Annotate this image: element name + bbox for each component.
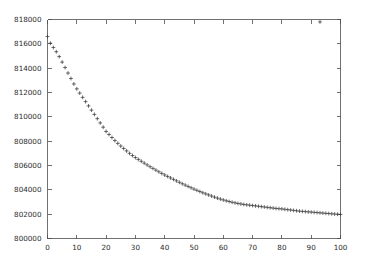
data-point-marker xyxy=(78,91,82,95)
plot-border xyxy=(48,20,341,239)
x-tick-label: 90 xyxy=(307,243,317,252)
data-point-marker xyxy=(60,60,64,64)
data-point-marker xyxy=(69,77,73,81)
x-tick-label: 100 xyxy=(334,243,348,252)
data-point-marker xyxy=(131,154,135,158)
data-point-marker xyxy=(81,95,85,99)
data-point-marker xyxy=(221,198,225,202)
y-tick-label: 818000 xyxy=(14,15,42,24)
data-point-marker xyxy=(98,121,102,125)
data-point-marker xyxy=(125,149,129,153)
x-axis-ticks: 0102030405060708090100 xyxy=(45,20,348,252)
y-axis-ticks: 8000008020008040008060008080008100008120… xyxy=(14,15,340,243)
data-point-marker xyxy=(87,104,91,108)
data-points xyxy=(46,20,343,216)
data-point-marker xyxy=(139,159,143,163)
x-tick-label: 10 xyxy=(72,243,82,252)
x-tick-label: 0 xyxy=(45,243,50,252)
data-point-marker xyxy=(134,156,138,160)
y-tick-label: 812000 xyxy=(14,88,42,97)
data-point-marker xyxy=(128,151,132,155)
data-point-marker xyxy=(136,158,140,162)
y-tick-label: 816000 xyxy=(14,39,42,48)
y-tick-label: 804000 xyxy=(14,185,42,194)
y-tick-label: 814000 xyxy=(14,64,42,73)
data-point-marker xyxy=(119,144,123,148)
data-point-marker xyxy=(51,46,55,50)
data-point-marker xyxy=(236,202,240,206)
data-point-marker xyxy=(339,213,343,217)
data-point-marker xyxy=(318,20,322,24)
x-tick-label: 70 xyxy=(248,243,258,252)
data-point-marker xyxy=(107,133,111,137)
x-tick-label: 60 xyxy=(219,243,229,252)
y-tick-label: 800000 xyxy=(14,234,42,243)
x-tick-label: 20 xyxy=(102,243,112,252)
x-tick-label: 80 xyxy=(277,243,287,252)
data-point-marker xyxy=(145,163,149,167)
plot-figure: 8000008020008040008060008080008100008120… xyxy=(0,0,373,263)
data-point-marker xyxy=(92,113,96,117)
data-point-marker xyxy=(66,71,70,75)
data-point-marker xyxy=(90,108,94,112)
data-point-marker xyxy=(101,125,105,129)
data-point-marker xyxy=(49,41,53,45)
data-point-marker xyxy=(95,117,99,121)
data-point-marker xyxy=(142,161,146,165)
y-tick-label: 802000 xyxy=(14,210,42,219)
x-tick-label: 30 xyxy=(131,243,141,252)
plot-axes xyxy=(48,20,341,239)
data-point-marker xyxy=(227,200,231,204)
data-point-marker xyxy=(63,66,67,70)
y-tick-label: 808000 xyxy=(14,137,42,146)
data-point-marker xyxy=(230,200,234,204)
data-point-marker xyxy=(116,141,120,145)
x-tick-label: 40 xyxy=(160,243,170,252)
data-point-marker xyxy=(54,50,58,54)
data-point-marker xyxy=(233,201,237,205)
data-point-marker xyxy=(84,100,88,104)
x-tick-label: 50 xyxy=(189,243,199,252)
data-point-marker xyxy=(113,139,117,143)
data-point-marker xyxy=(110,136,114,140)
scatter-plot-canvas: 8000008020008040008060008080008100008120… xyxy=(0,0,373,263)
data-point-marker xyxy=(122,147,126,151)
y-tick-label: 810000 xyxy=(14,112,42,121)
data-point-marker xyxy=(224,199,228,203)
data-point-marker xyxy=(72,82,76,86)
data-point-marker xyxy=(239,202,243,206)
data-point-marker xyxy=(75,87,79,91)
data-point-marker xyxy=(46,35,50,39)
data-point-marker xyxy=(57,55,61,59)
data-point-marker xyxy=(104,130,108,134)
y-tick-label: 806000 xyxy=(14,161,42,170)
